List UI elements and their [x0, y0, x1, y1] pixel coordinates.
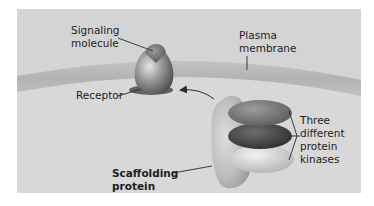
label-plasma-membrane-1: Plasma [239, 29, 277, 41]
protein-kinase-1-shape [228, 100, 292, 126]
label-scaffolding-protein-2: protein [112, 180, 155, 192]
label-plasma-membrane-2: membrane [239, 42, 296, 54]
label-receptor: Receptor [76, 89, 124, 101]
label-kinases-2: different [300, 127, 345, 139]
label-kinases-1: Three [299, 114, 330, 126]
label-scaffolding-protein-1: Scaffolding [112, 167, 178, 179]
label-kinases-4: kinases [300, 153, 340, 165]
label-kinases-3: protein [300, 140, 337, 152]
diagram-canvas: Signaling molecule Plasma membrane Recep… [0, 0, 374, 206]
label-signaling-molecule-2: molecule [71, 37, 119, 49]
protein-kinase-2-shape [228, 123, 292, 149]
label-signaling-molecule-1: Signaling [71, 24, 120, 36]
protein-kinase-3-shape [230, 145, 294, 173]
